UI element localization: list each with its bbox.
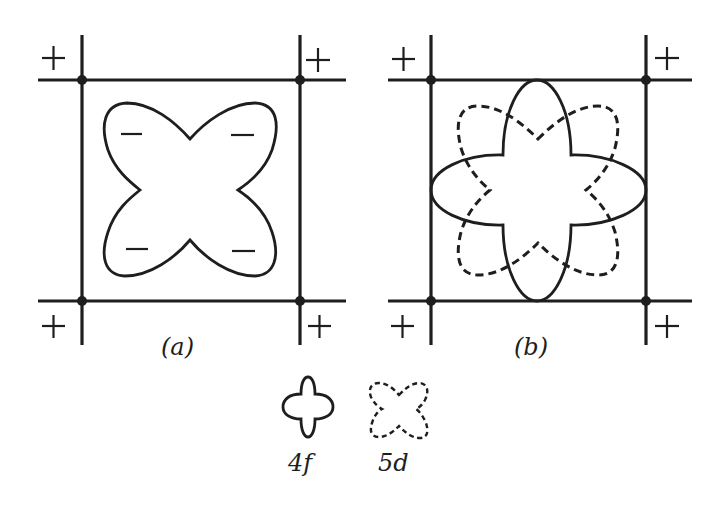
plus-sign-icon	[391, 315, 414, 338]
ligand-dot	[641, 75, 651, 85]
ligand-dot	[426, 75, 436, 85]
plus-sign-icon	[308, 315, 331, 338]
panel-a: (a)	[38, 35, 346, 361]
legend-4f-icon	[283, 377, 333, 437]
ligand-dot	[641, 296, 651, 306]
legend-4f-label: 4f	[287, 449, 316, 477]
panel-b-5d-orbital	[458, 106, 618, 275]
panel-a-label: (a)	[161, 333, 194, 361]
legend-5d-label: 5d	[378, 449, 409, 477]
orbital-diagram: (a) (b) 4f 5d	[0, 0, 724, 506]
legend-5d-icon	[370, 383, 427, 438]
plus-sign-icon	[655, 47, 679, 70]
legend: 4f 5d	[283, 377, 427, 477]
ligand-dot	[295, 75, 305, 85]
plus-sign-icon	[392, 47, 415, 71]
plus-sign-icon	[42, 46, 65, 70]
plus-sign-icon	[306, 48, 330, 72]
ligand-dot	[426, 296, 436, 306]
panel-b: (b)	[388, 35, 692, 361]
ligand-dot	[77, 296, 87, 306]
ligand-dot	[77, 75, 87, 85]
plus-sign-icon	[42, 315, 65, 338]
plus-sign-icon	[655, 315, 679, 338]
ligand-dot	[295, 296, 305, 306]
panel-b-label: (b)	[514, 333, 548, 361]
